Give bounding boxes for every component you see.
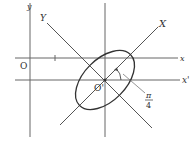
rotated-x-axis: [60, 27, 158, 125]
rotated-y-label: Y: [40, 13, 47, 23]
rotated-x-label: X: [158, 18, 167, 29]
rotated-y-axis: [47, 23, 152, 128]
angle-numerator: π: [145, 91, 152, 100]
diagram-canvas: y x O Y X x' O' π 4: [0, 0, 194, 151]
angle-denominator: 4: [146, 101, 151, 110]
origin-label: O: [20, 61, 27, 71]
new-origin-point: [104, 79, 107, 82]
x-axis-label: x: [180, 54, 185, 63]
angle-leader: [123, 74, 145, 93]
y-axis-label: y: [26, 2, 32, 11]
translated-x-label: x': [182, 75, 190, 85]
new-origin-label: O': [94, 83, 104, 93]
